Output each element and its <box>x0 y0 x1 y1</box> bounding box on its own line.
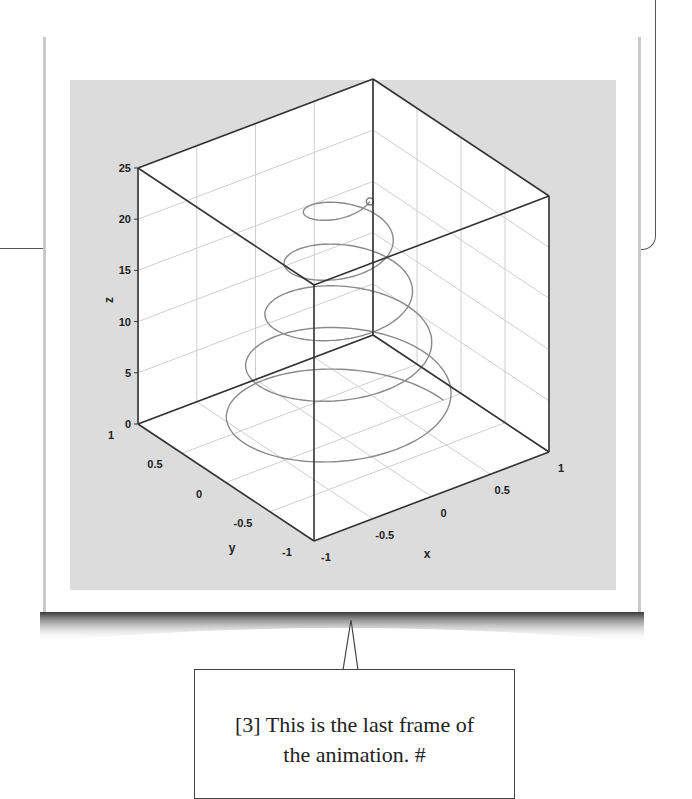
callout-text-line1: [3] This is the last frame of <box>195 710 514 740</box>
annotation-callout: [3] This is the last frame of the animat… <box>194 669 515 799</box>
callout-text-line2: the animation. # <box>195 740 514 770</box>
